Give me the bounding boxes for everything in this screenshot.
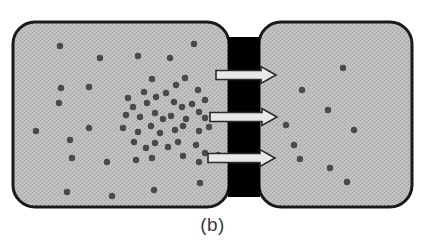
gas-particle (120, 125, 126, 131)
left-chamber (13, 22, 229, 207)
gas-particle (165, 144, 171, 150)
gas-particle (202, 115, 208, 121)
gas-particle (153, 94, 159, 100)
gas-particle (143, 145, 149, 151)
gas-particle (196, 128, 202, 134)
right-chamber (259, 22, 412, 207)
gas-particle (180, 123, 186, 129)
gas-particle (173, 82, 179, 88)
left-chamber-body (13, 22, 229, 207)
gas-particle (151, 187, 157, 193)
gas-particle (197, 180, 203, 186)
gas-particle (206, 124, 212, 130)
gas-particle (149, 155, 155, 161)
gas-particle (130, 104, 136, 110)
gas-particle (104, 159, 110, 165)
gas-particle (57, 43, 63, 49)
gas-particle (67, 137, 73, 143)
gas-particle (56, 100, 62, 106)
gas-particle (131, 139, 137, 145)
gas-particle (172, 127, 178, 133)
gas-particle (325, 107, 331, 113)
gas-particle (149, 76, 155, 82)
gas-particle (168, 113, 174, 119)
gas-particle (196, 159, 202, 165)
gas-particle (135, 129, 141, 135)
gas-particle (183, 116, 189, 122)
gas-particle (157, 130, 163, 136)
figure-caption: (b) (0, 213, 425, 237)
gas-particle (291, 142, 297, 148)
gas-particle (148, 123, 154, 129)
gas-particle (351, 127, 357, 133)
gas-particle (64, 189, 70, 195)
membrane-block (228, 80, 260, 113)
gas-particle (327, 165, 333, 171)
gas-particle (97, 55, 103, 61)
gas-particle (69, 155, 75, 161)
gas-particle (297, 156, 303, 162)
gas-particle (141, 89, 147, 95)
gas-particle (58, 85, 64, 91)
gas-particle (196, 109, 202, 115)
gas-particle (202, 97, 208, 103)
gas-particle (125, 95, 131, 101)
gas-particle (182, 75, 188, 81)
membrane-block (228, 122, 260, 153)
gas-particle (171, 99, 177, 105)
gas-particle (144, 100, 150, 106)
gas-particle (86, 84, 92, 90)
gas-particle (344, 179, 350, 185)
gas-particle (137, 114, 143, 120)
gas-particle (135, 53, 141, 59)
gas-particle (133, 157, 139, 163)
membrane-block (228, 37, 260, 70)
gas-particle (152, 110, 158, 116)
gas-particle (180, 153, 186, 159)
gas-particle (179, 104, 185, 110)
gas-particle (167, 55, 173, 61)
gas-particle (175, 139, 181, 145)
right-chamber-body (259, 22, 412, 207)
gas-particle (191, 41, 197, 47)
gas-particle (189, 101, 195, 107)
gas-particle (152, 140, 158, 146)
gas-particle (33, 128, 39, 134)
membrane-block (228, 163, 260, 197)
gas-particle (195, 87, 201, 93)
gas-particle (340, 65, 346, 71)
gas-particle (163, 90, 169, 96)
figure-container: (b) (0, 0, 425, 251)
gas-particle (283, 122, 289, 128)
gas-particle (193, 142, 199, 148)
gas-particle (123, 112, 129, 118)
gas-particle (299, 87, 305, 93)
gas-particle (109, 193, 115, 199)
gas-particle (160, 116, 166, 122)
gas-particle (86, 125, 92, 131)
